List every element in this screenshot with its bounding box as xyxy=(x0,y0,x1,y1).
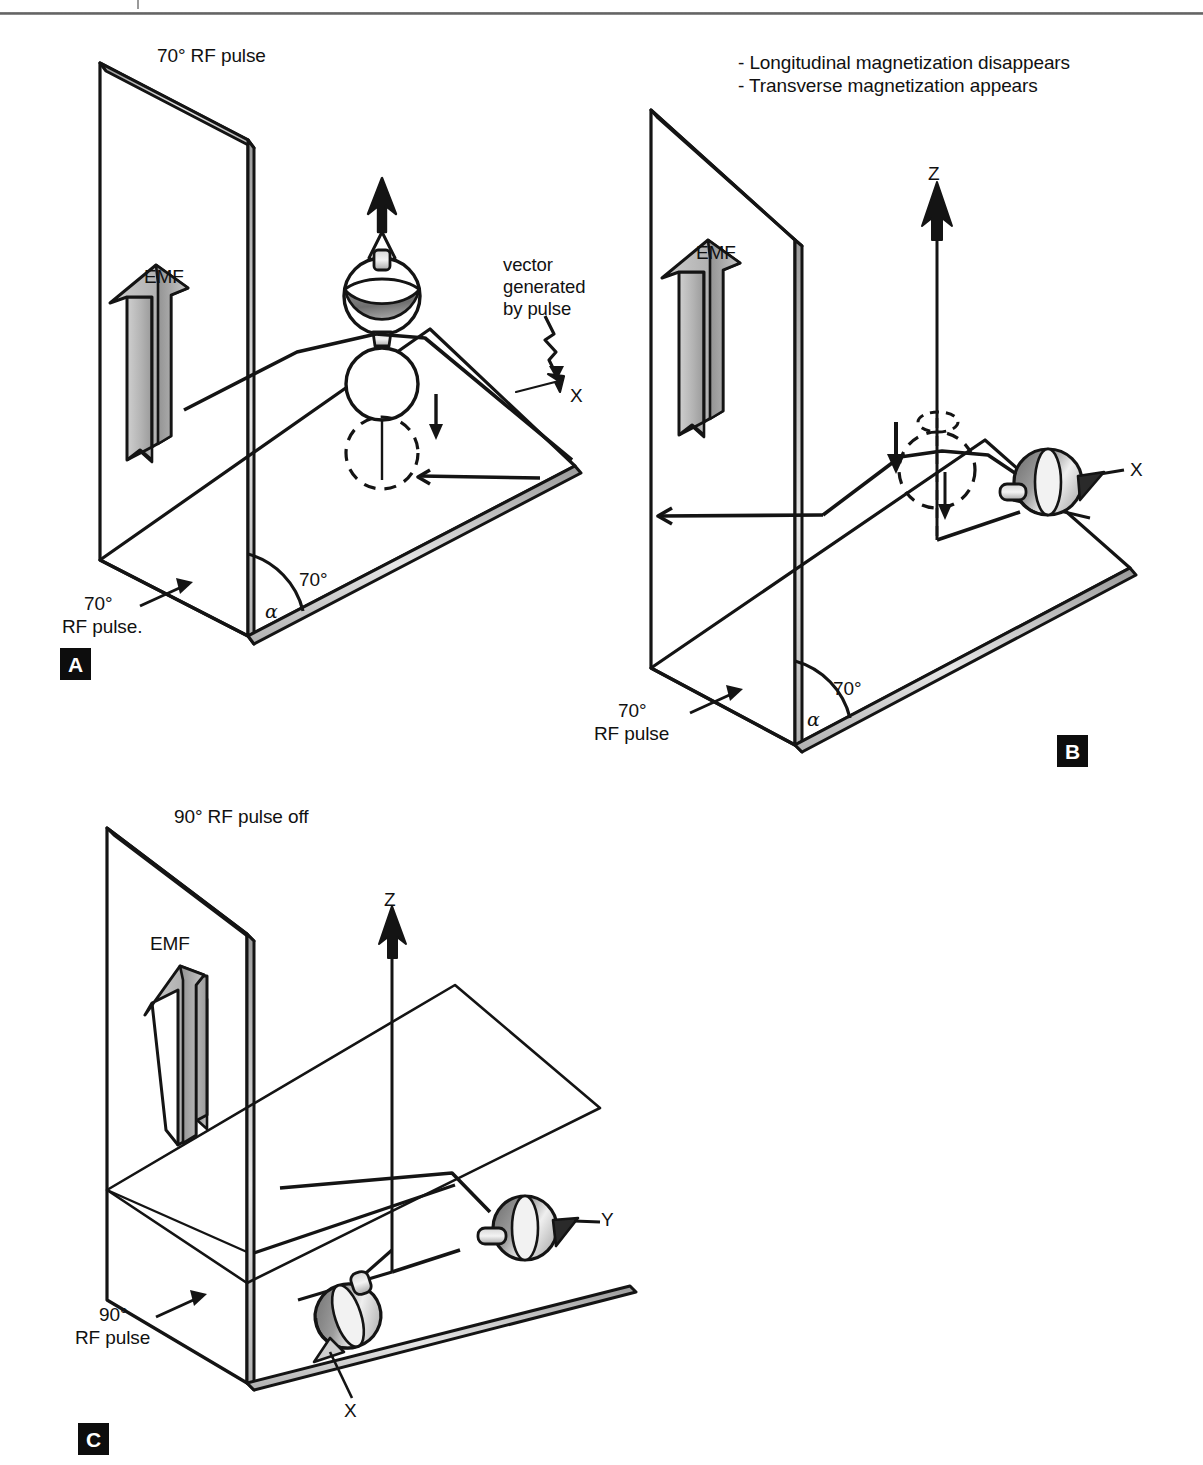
panel-a-callout-squiggle xyxy=(545,316,556,374)
figure-root: 70° RF pulse EMF vector generated by pul… xyxy=(0,0,1203,1465)
panel-b-axis-z-label: Z xyxy=(928,163,940,185)
panel-a-angle-alpha: α xyxy=(265,600,278,622)
panel-b-inner-down-arrow xyxy=(938,472,952,520)
panel-a-title: 70° RF pulse xyxy=(157,45,266,67)
panel-c-axis-z-label: Z xyxy=(384,889,396,911)
panel-c-z-axis xyxy=(379,906,406,1272)
panel-a-guide-bottom xyxy=(420,476,540,478)
panel-b-z-axis xyxy=(922,182,952,540)
panel-a-pulse-label-line1: 70° xyxy=(84,593,112,615)
panel-a-badge: A xyxy=(60,648,91,680)
panel-b-guide-left xyxy=(660,515,823,516)
panel-a-vector-callout-line1: vector xyxy=(503,254,553,276)
panel-b-note-line1: - Longitudinal magnetization disappears xyxy=(738,52,1070,74)
panel-c-spinning-top-y xyxy=(478,1196,600,1260)
panel-c-badge: C xyxy=(78,1423,109,1455)
panel-b-emf-label: EMF xyxy=(696,242,736,264)
panel-a-emf-label: EMF xyxy=(144,266,184,288)
panel-c-drawing xyxy=(107,828,636,1398)
panel-b-pulse-label-line2: RF pulse xyxy=(594,723,669,745)
panel-c-axis-x-label: X xyxy=(344,1400,357,1422)
panel-c-axis-y-label: Y xyxy=(601,1209,614,1231)
panel-a-precession-circle xyxy=(346,348,418,420)
panel-c-wall-floor-right xyxy=(254,1185,455,1253)
panel-a-vector-callout-line2: generated xyxy=(503,276,585,298)
panel-b-drawing xyxy=(651,110,1136,752)
panel-a-angle-value: 70° xyxy=(299,569,327,591)
panel-a-spinning-top xyxy=(344,250,420,346)
panel-b-axis-x-label: X xyxy=(1130,459,1143,481)
panel-a-vector-callout-line3: by pulse xyxy=(503,298,571,320)
panel-b-pulse-label-line1: 70° xyxy=(618,700,646,722)
panel-c-emf-label: EMF xyxy=(150,933,190,955)
panel-c-guide-lower xyxy=(392,1250,460,1272)
panel-b-spinning-top xyxy=(1000,449,1124,518)
panel-b-angle-alpha: α xyxy=(807,708,820,730)
panel-a-rotation-down-arrow xyxy=(429,394,443,440)
panel-c-spinning-top-x xyxy=(307,1270,390,1398)
panel-c-title: 90° RF pulse off xyxy=(174,806,309,828)
panel-b-guide-lower xyxy=(937,512,1020,540)
panel-c-guide-upper xyxy=(280,1173,490,1212)
panel-a-drawing xyxy=(100,63,581,644)
panel-c-pulse-label-line1: 90° xyxy=(99,1304,127,1326)
panel-c-pulse-label-line2: RF pulse xyxy=(75,1327,150,1349)
panel-b-badge: B xyxy=(1057,735,1088,767)
panel-b-note-line2: - Transverse magnetization appears xyxy=(738,75,1038,97)
panel-a-axis-x-label: X xyxy=(570,385,583,407)
panel-a-pulse-label-line2: RF pulse. xyxy=(62,616,142,638)
panel-a-wall xyxy=(100,63,254,644)
panel-b-wall xyxy=(651,110,802,752)
panel-b-angle-value: 70° xyxy=(833,678,861,700)
